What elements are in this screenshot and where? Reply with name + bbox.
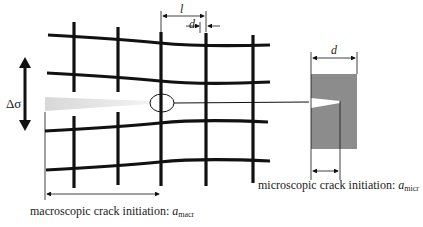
crack-initiation-diagram: Δσ l d macroscopic crack initiation: ama… bbox=[0, 0, 423, 227]
macro-caption: macroscopic crack initiation: amacr bbox=[30, 204, 195, 219]
grain-boundary-h1 bbox=[48, 35, 270, 46]
detail-width-label: d bbox=[331, 43, 338, 57]
grain-boundary-width-label: d bbox=[189, 17, 196, 31]
grain-boundary-h3 bbox=[45, 121, 268, 131]
zoom-leader-line bbox=[174, 102, 309, 103]
macro-crack-wedge bbox=[45, 97, 150, 111]
stress-label: Δσ bbox=[6, 96, 21, 111]
grain-boundary-h2 bbox=[47, 73, 270, 83]
micro-caption: microscopic crack initiation: amicr bbox=[258, 178, 419, 193]
grain-spacing-label: l bbox=[180, 2, 184, 16]
stress-arrow bbox=[19, 57, 31, 131]
grain-boundary-h4 bbox=[46, 160, 270, 170]
detail-box bbox=[311, 74, 357, 149]
